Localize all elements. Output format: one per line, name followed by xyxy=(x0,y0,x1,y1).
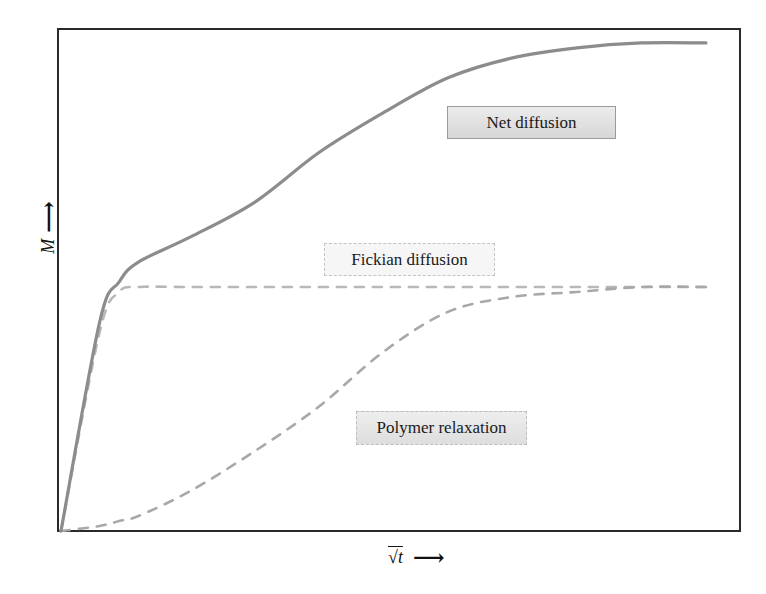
series-fickian-diffusion xyxy=(61,287,706,531)
chart-canvas xyxy=(0,0,766,594)
annotation-polymer-relaxation: Polymer relaxation xyxy=(356,411,527,445)
x-axis-label: √t ⟶ xyxy=(388,544,444,571)
annotation-fickian-diffusion-text: Fickian diffusion xyxy=(351,250,467,270)
series-polymer-relaxation xyxy=(61,287,706,531)
annotation-net-diffusion: Net diffusion xyxy=(447,106,616,139)
annotation-polymer-relaxation-text: Polymer relaxation xyxy=(377,418,507,438)
y-axis-arrow-icon: ⟶ xyxy=(35,201,62,233)
y-axis-label-text: M xyxy=(38,239,59,254)
annotation-fickian-diffusion: Fickian diffusion xyxy=(324,243,495,276)
annotation-net-diffusion-text: Net diffusion xyxy=(487,113,577,133)
x-axis-arrow-icon: ⟶ xyxy=(413,544,445,571)
y-axis-label: M ⟶ xyxy=(35,201,62,254)
x-axis-label-text: √t xyxy=(388,547,403,568)
